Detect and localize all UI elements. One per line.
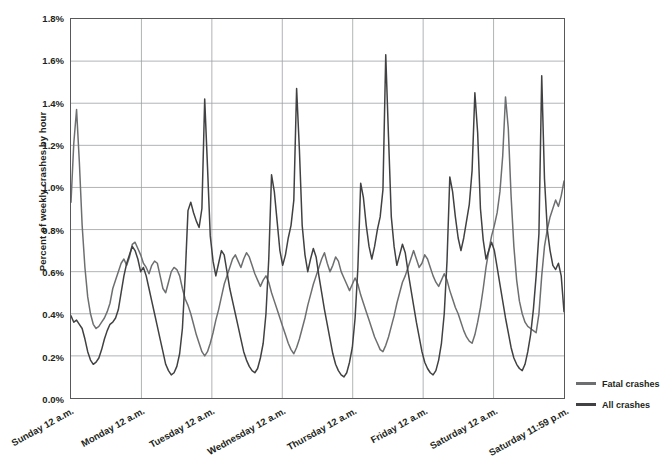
legend-item[interactable]: Fatal crashes	[576, 375, 666, 392]
y-axis-tick-labels: 1.8%1.6%1.4%1.2%1.0%0.8%0.6%0.4%0.2%0.0%	[20, 0, 64, 467]
y-tick-label: 1.8%	[20, 13, 64, 24]
plot-area	[70, 18, 565, 399]
y-tick-label: 1.4%	[20, 97, 64, 108]
legend-swatch-icon	[576, 382, 596, 385]
crash-rate-line-chart: Percent of weekly crashes by hour 1.8%1.…	[0, 0, 666, 467]
legend-item[interactable]: All crashes	[576, 396, 666, 413]
y-tick-label: 1.2%	[20, 140, 64, 151]
y-tick-label: 0.4%	[20, 309, 64, 320]
y-tick-label: 0.2%	[20, 351, 64, 362]
legend-label: All crashes	[602, 400, 650, 410]
legend-label: Fatal crashes	[602, 379, 660, 389]
plot-svg	[71, 19, 564, 398]
y-tick-label: 1.6%	[20, 55, 64, 66]
y-tick-label: 0.6%	[20, 267, 64, 278]
y-tick-label: 0.0%	[20, 394, 64, 405]
y-tick-label: 1.0%	[20, 182, 64, 193]
legend-swatch-icon	[576, 403, 596, 406]
chart-legend: Fatal crashesAll crashes	[576, 375, 666, 417]
grid-lines	[71, 19, 564, 398]
y-tick-label: 0.8%	[20, 224, 64, 235]
series-line-fatal-crashes	[71, 97, 564, 356]
